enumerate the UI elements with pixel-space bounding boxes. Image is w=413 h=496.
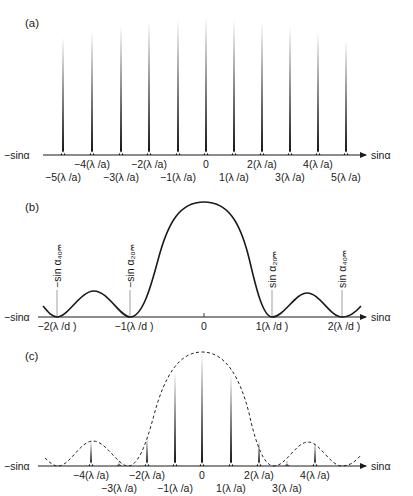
tick-label: −1(λ /d ) <box>115 320 154 332</box>
panel-b-axis-left-label: −sinα <box>4 311 30 323</box>
tick-label: 2(λ /d ) <box>328 320 361 332</box>
panel-b: (b) −sinα sinα −sin α₄ₒₘ −sin α₂ₒₘ sin α… <box>4 201 391 332</box>
tick-label: 0 <box>199 469 205 481</box>
tick-label: 3(λ /a) <box>272 482 302 494</box>
tick-label: 0 <box>201 320 207 332</box>
tick-label: 0 <box>203 158 209 170</box>
tick-label: 4(λ /a) <box>303 158 333 170</box>
panel-c-peaks <box>89 352 318 466</box>
tick-label: 2(λ /a) <box>244 469 274 481</box>
panel-a: (a) −sinα sinα −4(λ /a) −2(λ /a) 0 2(λ /… <box>4 17 391 183</box>
tick-label: 1(λ /a) <box>219 171 249 183</box>
panel-a-axis-left-label: −sinα <box>4 149 30 161</box>
tick-label: −3(λ /a) <box>101 482 137 494</box>
panel-a-label: (a) <box>25 17 39 29</box>
panel-c: (c) −sinα sinα −4(λ /a) −2(λ /a) 0 2(λ /… <box>4 350 391 494</box>
tick-label: −5(λ /a) <box>45 171 81 183</box>
panel-b-label: (b) <box>25 201 39 213</box>
tick-label: −1(λ /a) <box>157 482 193 494</box>
panel-c-label: (c) <box>25 350 39 362</box>
tick-label: −4(λ /a) <box>74 158 110 170</box>
panel-b-tick-labels: −2(λ /d ) −1(λ /d ) 0 1(λ /d ) 2(λ /d ) <box>38 320 361 332</box>
panel-b-axis-right-label: sinα <box>371 311 391 323</box>
panel-c-envelope-dashed <box>45 352 361 466</box>
panel-a-tick-labels-upper: −4(λ /a) −2(λ /a) 0 2(λ /a) 4(λ /a) <box>74 158 333 170</box>
tick-label: 1(λ /d ) <box>256 320 289 332</box>
tick-label: −4(λ /a) <box>73 469 109 481</box>
tick-label: 2(λ /a) <box>247 158 277 170</box>
panel-c-tick-labels-lower: −3(λ /a) −1(λ /a) 1(λ /a) 3(λ /a) <box>101 482 302 494</box>
minima-label: −sin α₂ₒₘ <box>124 244 136 288</box>
panel-a-axis-right-label: sinα <box>371 149 391 161</box>
tick-label: −3(λ /a) <box>103 171 139 183</box>
tick-label: −2(λ /a) <box>129 469 165 481</box>
panel-b-envelope-curve <box>43 202 361 317</box>
minima-label: sin α₄ₒₘ <box>336 250 348 288</box>
minima-label: sin α₂ₒₘ <box>266 251 278 288</box>
panel-a-peaks <box>61 17 349 155</box>
tick-label: −2(λ /d ) <box>38 320 77 332</box>
panel-b-minima-labels: −sin α₄ₒₘ −sin α₂ₒₘ sin α₂ₒₘ sin α₄ₒₘ <box>51 244 348 288</box>
tick-label: −2(λ /a) <box>131 158 167 170</box>
tick-label: 4(λ /a) <box>300 469 330 481</box>
panel-b-minima-markers <box>57 290 342 317</box>
panel-c-axis-left-label: −sinα <box>4 460 30 472</box>
minima-label: −sin α₄ₒₘ <box>51 244 63 288</box>
panel-a-tick-labels-lower: −5(λ /a) −3(λ /a) −1(λ /a) 1(λ /a) 3(λ /… <box>45 171 361 183</box>
diffraction-figure: (a) −sinα sinα −4(λ /a) −2(λ /a) 0 2(λ /… <box>0 0 413 496</box>
tick-label: 3(λ /a) <box>275 171 305 183</box>
panel-c-tick-labels-upper: −4(λ /a) −2(λ /a) 0 2(λ /a) 4(λ /a) <box>73 469 330 481</box>
panel-c-axis-right-label: sinα <box>371 460 391 472</box>
tick-label: 1(λ /a) <box>216 482 246 494</box>
tick-label: 5(λ /a) <box>331 171 361 183</box>
tick-label: −1(λ /a) <box>160 171 196 183</box>
